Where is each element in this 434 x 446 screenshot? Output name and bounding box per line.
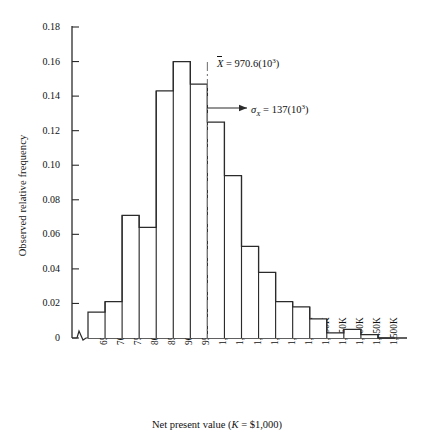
axis-break-symbol: [72, 331, 88, 340]
sigma-arrow-head: [239, 105, 247, 111]
x-tick-label: 1,050K: [236, 317, 245, 345]
x-tick-label: 1,350K: [339, 317, 348, 345]
x-tick-label: 1,500K: [390, 317, 399, 345]
y-tick-label: 0.16: [26, 57, 60, 67]
y-tick-label: 0.08: [26, 195, 60, 205]
x-tick-label: 1,250K: [305, 317, 314, 345]
x-tick-label: 1,300K: [322, 317, 331, 345]
x-tick-label: 1,400K: [356, 317, 365, 345]
y-tick-label: 0.04: [26, 264, 60, 274]
x-tick-label: 1,100K: [254, 317, 263, 345]
y-tick-label: 0: [26, 333, 60, 343]
x-tick-label: 1,000K: [219, 317, 228, 345]
x-tick-label: 1,450K: [373, 317, 382, 345]
y-tick-label: 0.12: [26, 126, 60, 136]
y-tick-label: 0.06: [26, 229, 60, 239]
x-tick-label: 1,200K: [288, 317, 297, 345]
y-tick-label: 0.14: [26, 91, 60, 101]
y-tick-label: 0.10: [26, 160, 60, 170]
histogram-outline: [88, 62, 395, 338]
x-tick-label: 1,150K: [271, 317, 280, 345]
x-tick-label: 700K: [117, 324, 126, 345]
x-tick-label: 650K: [100, 324, 109, 345]
x-axis-title: Net present value (K = $1,000): [0, 419, 434, 430]
x-tick-label: 750K: [134, 324, 143, 345]
x-tick-label: 950K: [202, 324, 211, 345]
x-tick-label: 800K: [151, 324, 160, 345]
y-tick-label: 0.02: [26, 298, 60, 308]
x-tick-label: 850K: [168, 324, 177, 345]
mean-annotation: X = 970.6(103): [217, 56, 279, 69]
histogram-figure: Observed relative frequency 00.020.040.0…: [0, 0, 434, 446]
y-tick-label: 0.18: [26, 22, 60, 32]
x-tick-label: 900K: [185, 324, 194, 345]
sigma-annotation: σX = 137(103): [251, 102, 308, 118]
